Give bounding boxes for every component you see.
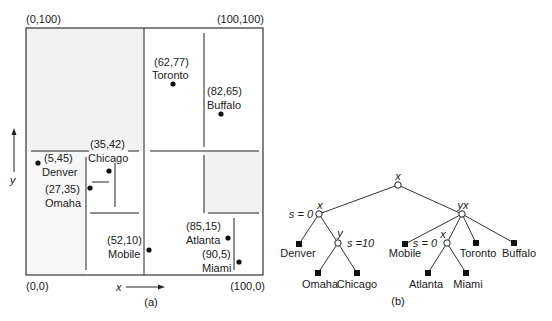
point-coord: (85,15) — [186, 220, 221, 232]
node-label-left-inner: y — [336, 227, 344, 239]
leaf-buffalo — [511, 240, 517, 246]
point-toronto: (62,77) Toronto — [152, 56, 189, 87]
point-dot — [170, 81, 175, 86]
shaded-region-top-left — [26, 28, 144, 151]
corner-label-bottom-left: (0,0) — [26, 280, 49, 292]
node-split-left: s = 0 — [289, 208, 314, 220]
point-coord: (62,77) — [154, 56, 189, 68]
point-name: Buffalo — [207, 99, 241, 111]
point-dot — [106, 168, 111, 173]
axis-y-label: y — [9, 174, 17, 186]
leaf-label-atlanta: Atlanta — [409, 278, 444, 290]
point-name: Denver — [42, 166, 78, 178]
tree-node-root — [395, 182, 401, 188]
point-dot — [236, 259, 241, 264]
leaf-label-miami: Miami — [453, 278, 482, 290]
point-coord: (5,45) — [44, 152, 73, 164]
point-coord: (27,35) — [45, 183, 80, 195]
node-label-right-inner: x — [439, 228, 446, 240]
axis-x-label: x — [115, 281, 122, 293]
point-name: Atlanta — [186, 234, 221, 246]
node-split-left-inner: s =10 — [347, 237, 375, 249]
leaf-miami — [463, 270, 469, 276]
edge — [319, 214, 338, 243]
leaf-label-omaha: Omaha — [302, 278, 339, 290]
point-name: Toronto — [152, 69, 189, 81]
figure-b-tree: x x s = 0 y s =10 yx x s = 0 Denver Omah… — [280, 170, 536, 307]
point-mobile: (52,10) Mobile — [107, 234, 152, 260]
leaf-label-chicago: Chicago — [337, 278, 377, 290]
corner-label-bottom-right: (100,0) — [230, 280, 265, 292]
point-dot — [146, 247, 151, 252]
edge — [462, 214, 514, 243]
edge — [398, 185, 462, 214]
corner-label-top-left: (0,100) — [26, 13, 61, 25]
leaf-label-denver: Denver — [280, 247, 316, 259]
point-coord: (52,10) — [107, 234, 142, 246]
caption-a: (a) — [144, 296, 157, 308]
tree-node-right-inner — [444, 240, 450, 246]
point-name: Miami — [202, 262, 231, 274]
point-name: Chicago — [88, 152, 128, 164]
shaded-region-right-middle — [204, 151, 263, 213]
leaf-chicago — [354, 270, 360, 276]
point-miami: (90,5) Miami — [202, 248, 242, 274]
tree-node-left-inner — [335, 240, 341, 246]
leaf-omaha — [315, 270, 321, 276]
leaf-label-buffalo: Buffalo — [502, 247, 536, 259]
leaf-toronto — [473, 240, 479, 246]
point-coord: (82,65) — [207, 85, 242, 97]
point-atlanta: (85,15) Atlanta — [186, 220, 231, 246]
node-label-left: x — [316, 199, 323, 211]
point-dot — [87, 185, 92, 190]
point-coord: (90,5) — [202, 248, 231, 260]
tree-node-right — [459, 211, 465, 217]
corner-label-top-right: (100,100) — [217, 13, 264, 25]
caption-b: (b) — [391, 295, 404, 307]
arrow-up-icon — [12, 128, 17, 135]
leaf-atlanta — [425, 270, 431, 276]
point-buffalo: (82,65) Buffalo — [207, 85, 242, 117]
arrow-right-icon — [158, 285, 165, 290]
point-name: Mobile — [108, 248, 140, 260]
figure-canvas: (0,100) (100,100) (0,0) (100,0) x y (62,… — [0, 0, 552, 321]
tree-node-left — [316, 211, 322, 217]
point-name: Omaha — [45, 197, 82, 209]
node-label-right: yx — [457, 199, 470, 211]
point-dot — [218, 111, 223, 116]
leaf-label-toronto: Toronto — [460, 247, 497, 259]
node-label-root: x — [394, 170, 401, 182]
point-coord: (35,42) — [90, 138, 125, 150]
point-dot — [35, 160, 40, 165]
point-chicago: (35,42) Chicago — [88, 138, 128, 174]
edge — [318, 243, 338, 273]
figure-a-region-map: (0,100) (100,100) (0,0) (100,0) x y (62,… — [9, 13, 265, 308]
leaf-label-mobile: Mobile — [389, 247, 421, 259]
edge — [319, 185, 398, 214]
point-dot — [225, 235, 230, 240]
